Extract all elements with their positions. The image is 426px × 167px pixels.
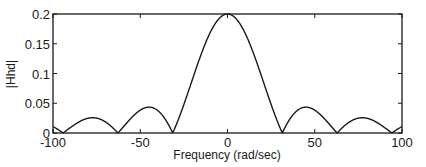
x-axis-ticks: -100-50050100 [40, 14, 413, 150]
x-tick-label: 100 [391, 135, 413, 150]
magnitude-curve [53, 14, 402, 133]
x-tick-label: 50 [308, 135, 322, 150]
y-axis-label: |Hhd| [4, 60, 18, 88]
axes-box [53, 14, 402, 133]
y-tick-label: 0.05 [25, 96, 50, 111]
y-tick-label: 0.15 [25, 37, 50, 52]
y-tick-label: 0 [43, 126, 50, 141]
y-tick-label: 0.1 [32, 67, 50, 82]
y-tick-label: 0.2 [32, 7, 50, 22]
x-axis-label: Frequency (rad/sec) [173, 148, 280, 162]
x-tick-label: -50 [131, 135, 150, 150]
chart: -100-50050100 00.050.10.150.2 Frequency … [0, 0, 426, 167]
